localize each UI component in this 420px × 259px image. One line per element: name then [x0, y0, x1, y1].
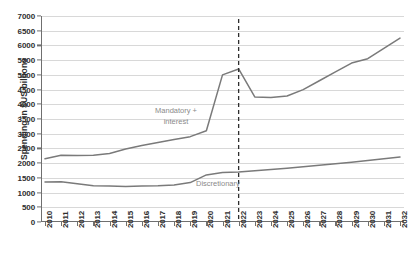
x-tick-label: 2023 [255, 211, 264, 228]
y-tick-label: 1000 [18, 188, 35, 197]
x-tick-label: 2030 [368, 211, 377, 228]
discretionary-annotation: Discretionary [196, 179, 256, 190]
x-tick-label: 2024 [271, 211, 280, 228]
x-tick-label: 2025 [287, 211, 296, 228]
x-tick-label: 2020 [206, 211, 215, 228]
x-tick-label: 2017 [158, 211, 167, 228]
x-tick-label: 2013 [93, 211, 102, 228]
y-tick-label: 6500 [18, 26, 35, 35]
x-axis-ticks: 2010201120122013201420152016201720182019… [41, 222, 404, 259]
y-tick-label: 6000 [18, 41, 35, 50]
y-tick-label: 5500 [18, 56, 35, 65]
mandatory-annotation-line1: Mandatory + [140, 106, 212, 117]
y-tick-label: 4000 [18, 100, 35, 109]
y-tick-label: 2500 [18, 144, 35, 153]
x-tick-label: 2021 [223, 211, 232, 228]
y-tick-label: 4500 [18, 85, 35, 94]
y-tick-label: 0 [31, 218, 35, 227]
x-tick-label: 2027 [319, 211, 328, 228]
y-tick-label: 3000 [18, 129, 35, 138]
x-tick-label: 2029 [352, 211, 361, 228]
x-tick-label: 2015 [126, 211, 135, 228]
x-tick-label: 2019 [190, 211, 199, 228]
y-tick-label: 3500 [18, 115, 35, 124]
x-tick-label: 2011 [61, 211, 70, 228]
x-tick-label: 2031 [384, 211, 393, 228]
mandatory-annotation: Mandatory + interest [140, 106, 212, 128]
y-tick-label: 7000 [18, 12, 35, 21]
x-tick-label: 2010 [45, 211, 54, 228]
line-chart: Spending in $US billions 050010001500200… [0, 0, 420, 259]
mandatory-annotation-line2: interest [140, 117, 212, 128]
x-tick-label: 2012 [77, 211, 86, 228]
x-tick-label: 2018 [174, 211, 183, 228]
y-tick-label: 2000 [18, 159, 35, 168]
x-tick-label: 2022 [239, 211, 248, 228]
series-line [45, 38, 400, 159]
x-tick-label: 2016 [142, 211, 151, 228]
series-layer [41, 16, 404, 222]
x-tick-label: 2028 [335, 211, 344, 228]
y-tick-label: 5000 [18, 70, 35, 79]
x-tick-label: 2026 [303, 211, 312, 228]
y-tick-label: 500 [22, 203, 35, 212]
y-tick-label: 1500 [18, 173, 35, 182]
x-tick-label: 2032 [400, 211, 409, 228]
y-axis-ticks: 0500100015002000250030003500400045005000… [0, 16, 41, 222]
x-tick-label: 2014 [110, 211, 119, 228]
